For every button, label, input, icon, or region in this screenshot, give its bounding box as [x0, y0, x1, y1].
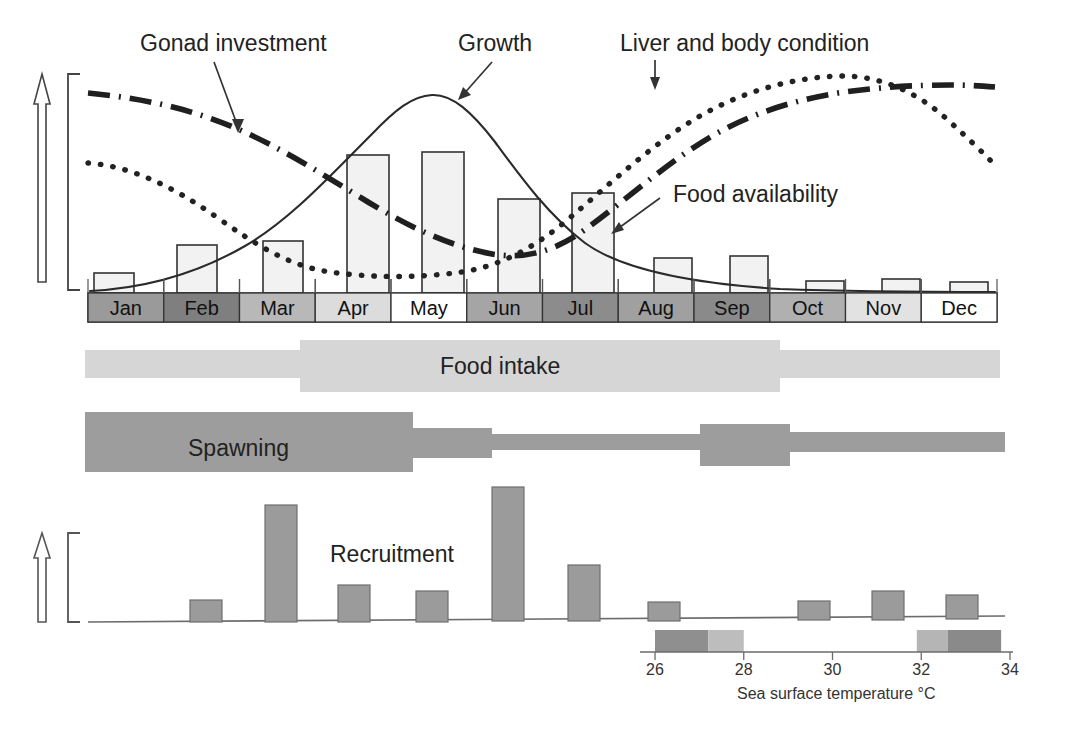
temperature-scale: [640, 630, 1013, 660]
temperature-tick-label-34: 34: [998, 662, 1022, 678]
band-label-spawning: Spawning: [188, 437, 289, 460]
figure-root: Gonad investment Growth Liver and body c…: [0, 0, 1071, 741]
band-label-food-intake: Food intake: [440, 355, 560, 378]
bottom-y-axis-bracket: [68, 533, 80, 622]
temperature-tick-label-30: 30: [821, 662, 845, 678]
month-label-jul: Jul: [543, 298, 619, 318]
month-label-mar: Mar: [240, 298, 316, 318]
recruitment-baseline: [88, 616, 1005, 622]
liver-body-condition-curve: [88, 76, 995, 277]
temperature-segment: [948, 630, 1001, 652]
month-label-sep: Sep: [694, 298, 770, 318]
month-label-feb: Feb: [164, 298, 240, 318]
top-y-axis-arrow-icon: [34, 74, 50, 282]
callout-liver-body-condition: Liver and body condition: [620, 32, 869, 55]
recruitment-bars: [190, 487, 978, 622]
temperature-segment: [917, 630, 948, 652]
temperature-tick-label-28: 28: [732, 662, 756, 678]
callout-growth: Growth: [458, 32, 532, 55]
temperature-tick-label-26: 26: [643, 662, 667, 678]
band-label-recruitment: Recruitment: [330, 543, 454, 566]
month-label-jun: Jun: [467, 298, 543, 318]
gonad-investment-curve: [88, 85, 995, 256]
month-label-apr: Apr: [315, 298, 391, 318]
month-label-may: May: [391, 298, 467, 318]
callout-food-availability: Food availability: [673, 183, 838, 206]
month-label-jan: Jan: [88, 298, 164, 318]
month-label-oct: Oct: [770, 298, 846, 318]
temperature-tick-label-32: 32: [909, 662, 933, 678]
bottom-y-axis-arrow-icon: [34, 533, 50, 622]
callout-gonad-investment: Gonad investment: [140, 32, 327, 55]
food-availability-bars: [94, 152, 988, 293]
month-label-aug: Aug: [618, 298, 694, 318]
temperature-segment: [655, 630, 708, 652]
month-label-nov: Nov: [846, 298, 922, 318]
month-label-dec: Dec: [921, 298, 997, 318]
temperature-caption: Sea surface temperature °C: [737, 686, 936, 702]
temperature-segment: [708, 630, 744, 652]
top-y-axis-bracket: [68, 74, 80, 290]
